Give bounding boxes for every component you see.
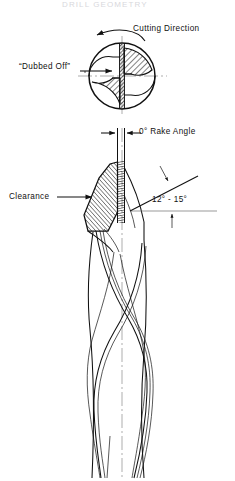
rake-angle-annotation: 0° Rake Angle <box>101 127 196 136</box>
cutting-direction-annotation: Cutting Direction <box>97 24 200 41</box>
point-web-hatch <box>118 161 125 223</box>
rake-angle-label: 0° Rake Angle <box>139 127 196 136</box>
end-view-group <box>78 36 167 114</box>
fluted-body-group <box>87 231 153 478</box>
cutting-direction-label: Cutting Direction <box>133 24 200 33</box>
flute-helix-2 <box>94 243 142 478</box>
page-header-fragment: DRILL GEOMETRY <box>62 0 148 9</box>
flute-land-line-2 <box>107 436 110 478</box>
point-right-inner-edge <box>125 196 136 228</box>
clearance-annotation: Clearance <box>9 192 92 201</box>
angle-inclined-line <box>130 176 198 211</box>
dubbed-off-annotation: “Dubbed Off” <box>19 62 112 72</box>
arrow-down-right-icon <box>160 166 168 181</box>
clearance-label: Clearance <box>9 192 50 201</box>
end-view-upper-lip-section <box>124 48 152 75</box>
point-angle-label: 12° - 15° <box>152 195 187 204</box>
end-view-lower-lip-section <box>92 78 120 104</box>
figure-root: DRILL GEOMETRY Cuttin <box>0 0 235 481</box>
side-view-group: 0° Rake Angle Clearance <box>9 127 217 478</box>
point-right-flank <box>125 168 145 240</box>
twist-drill-diagram: DRILL GEOMETRY Cuttin <box>0 0 235 481</box>
end-view-web-hatch <box>120 44 125 108</box>
dubbed-off-label: “Dubbed Off” <box>19 62 70 71</box>
